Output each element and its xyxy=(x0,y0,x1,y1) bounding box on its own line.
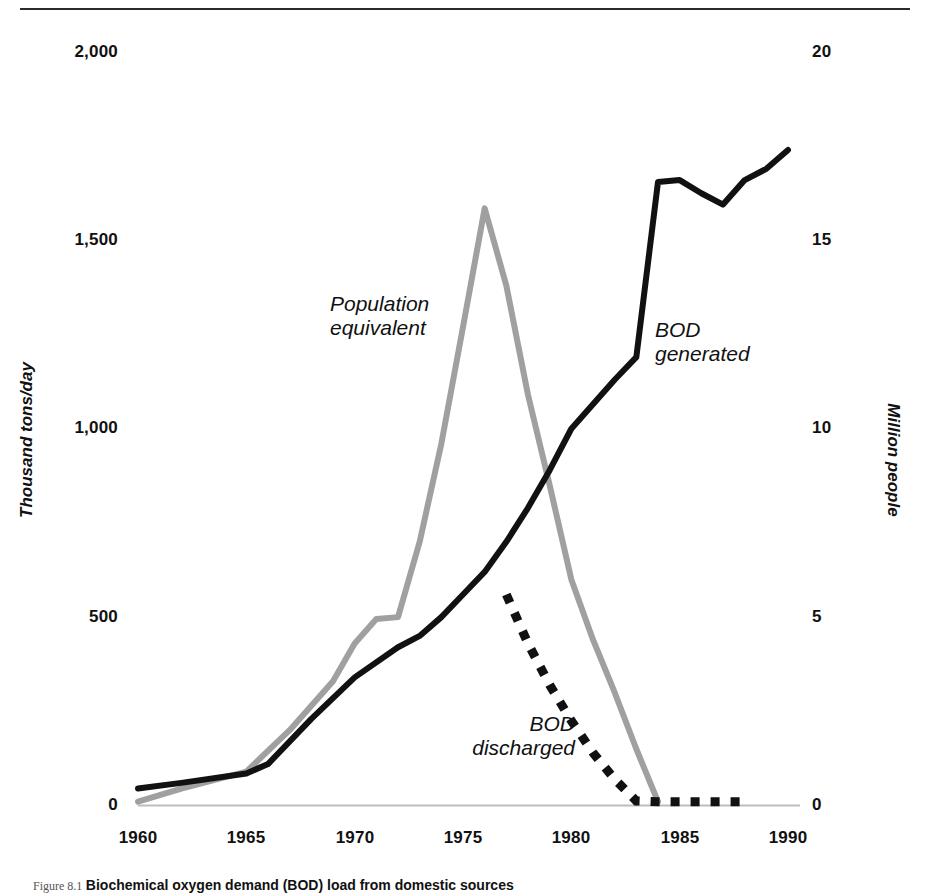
chart-plot-area: 2,000 1,500 1,000 500 0 20 15 10 5 0 196… xyxy=(0,0,932,893)
y-axis-right-title: Million people xyxy=(883,375,903,545)
series-label-bod-discharged: BOD discharged xyxy=(425,712,575,760)
y-axis-left-tick-0: 0 xyxy=(18,795,118,815)
y-axis-left-tick-2000: 2,000 xyxy=(18,42,118,62)
x-axis-tick-1970: 1970 xyxy=(336,828,375,848)
x-axis-tick-1975: 1975 xyxy=(444,828,483,848)
y-axis-right-tick-10: 10 xyxy=(812,418,872,438)
figure-caption-number: Figure 8.1 xyxy=(33,879,82,893)
series-label-bod-generated: BOD generated xyxy=(655,318,750,366)
y-axis-left-title: Thousand tons/day xyxy=(17,355,37,525)
y-axis-right-tick-5: 5 xyxy=(812,607,872,627)
series-label-population-equivalent: Population equivalent xyxy=(330,292,429,340)
y-axis-right-tick-15: 15 xyxy=(812,230,872,250)
figure-caption-title: Biochemical oxygen demand (BOD) load fro… xyxy=(86,877,514,893)
y-axis-left-tick-500: 500 xyxy=(18,607,118,627)
series-line-bod-generated xyxy=(138,150,788,789)
x-axis-tick-1960: 1960 xyxy=(119,828,158,848)
series-line-bod-discharged xyxy=(506,595,744,802)
x-axis-tick-1980: 1980 xyxy=(552,828,591,848)
y-axis-right-tick-0: 0 xyxy=(812,795,872,815)
figure-caption: Figure 8.1 Biochemical oxygen demand (BO… xyxy=(33,877,913,893)
y-axis-left-tick-1500: 1,500 xyxy=(18,230,118,250)
x-axis-tick-1965: 1965 xyxy=(227,828,266,848)
x-axis-tick-1985: 1985 xyxy=(661,828,700,848)
y-axis-right-tick-20: 20 xyxy=(812,42,872,62)
figure-container: 2,000 1,500 1,000 500 0 20 15 10 5 0 196… xyxy=(0,0,932,893)
x-axis-tick-1990: 1990 xyxy=(769,828,808,848)
